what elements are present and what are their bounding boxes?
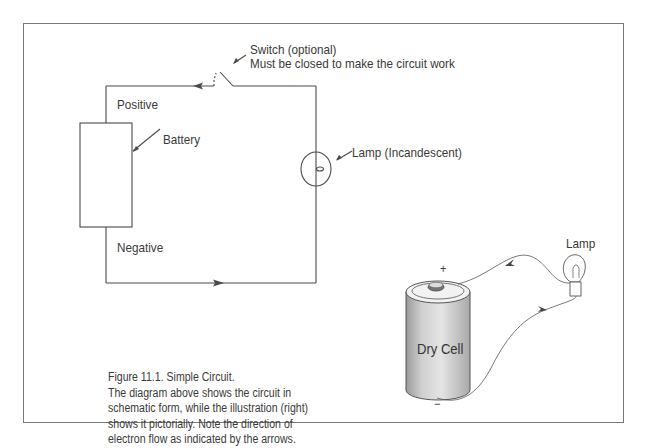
switch-note: Must be closed to make the circuit work xyxy=(250,56,455,71)
negative-label: Negative xyxy=(117,240,163,255)
caption-line: electron flow as indicated by the arrows… xyxy=(108,432,308,448)
pictorial-lamp-label: Lamp xyxy=(566,236,595,251)
caption-line: schematic form, while the illustration (… xyxy=(108,401,308,417)
lamp-filament xyxy=(317,167,324,171)
positive-label: Positive xyxy=(117,97,158,112)
caption-line: The diagram above shows the circuit in xyxy=(108,386,308,402)
caption-line: shows it pictorially. Note the direction… xyxy=(108,417,308,433)
lamp-pointer-head-icon xyxy=(336,155,342,161)
caption-title: Figure 11.1. Simple Circuit. xyxy=(108,370,308,386)
battery-symbol xyxy=(80,123,132,227)
lamp-bulb-illustration xyxy=(563,255,585,296)
wire-positive xyxy=(458,255,570,284)
plus-sign: + xyxy=(440,262,446,277)
arrowheads xyxy=(133,58,342,287)
switch-open-dashed xyxy=(214,73,216,86)
battery-label: Battery xyxy=(163,132,200,147)
switch-pointer-head-icon xyxy=(233,58,239,64)
pictorial-arrows xyxy=(505,259,547,312)
switch-label: Switch (optional) xyxy=(250,42,336,57)
dry-cell-label: Dry Cell xyxy=(417,341,463,357)
minus-sign: − xyxy=(434,397,440,412)
lamp-label: Lamp (Incandescent) xyxy=(352,145,462,160)
switch-lever xyxy=(220,72,233,86)
figure-caption: Figure 11.1. Simple Circuit. The diagram… xyxy=(108,370,308,448)
